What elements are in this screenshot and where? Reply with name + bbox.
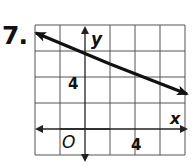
- coordinate-graph: y x O 4 4: [0, 0, 195, 168]
- y-tick-label-4: 4: [68, 75, 78, 93]
- grid: [35, 25, 185, 155]
- origin-label: O: [62, 132, 75, 152]
- x-axis-label: x: [169, 109, 181, 128]
- axes: [37, 28, 186, 160]
- x-tick-label-4: 4: [131, 136, 141, 154]
- graphed-line: [110, 64, 187, 94]
- y-axis-label: y: [91, 29, 103, 49]
